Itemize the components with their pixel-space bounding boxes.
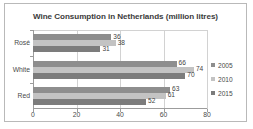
legend-label: 2015 <box>218 90 233 97</box>
legend-swatch-icon <box>211 91 215 95</box>
value-axis-labels: 020406080 <box>33 111 207 123</box>
chart-frame: Wine Consumption in Netherlands (million… <box>4 3 247 122</box>
bar-value-label: 38 <box>118 40 125 46</box>
legend-label: 2005 <box>218 62 233 69</box>
bar-value-label: 74 <box>196 66 203 72</box>
bar-value-label: 31 <box>102 46 109 52</box>
plot-area: 363831667470636152 <box>33 30 207 109</box>
legend-swatch-icon <box>211 63 215 67</box>
legend-item-2010[interactable]: 2010 <box>211 72 251 86</box>
bar-rosé-2015[interactable] <box>33 46 100 52</box>
value-axis-tick-label: 20 <box>73 111 81 118</box>
value-axis-tick-label: 40 <box>116 111 124 118</box>
bar-white-2015[interactable] <box>33 73 185 79</box>
legend-item-2015[interactable]: 2015 <box>211 86 251 100</box>
legend-item-2005[interactable]: 2005 <box>211 58 251 72</box>
category-tick <box>30 56 33 57</box>
category-label-white: White <box>13 66 30 73</box>
bar-red-2015[interactable] <box>33 99 146 105</box>
value-axis-tick-label: 0 <box>31 111 35 118</box>
category-label-rosé: Rosé <box>14 39 30 46</box>
category-tick <box>30 30 33 31</box>
category-tick <box>30 83 33 84</box>
category-axis-labels: RoséWhiteRed <box>5 30 30 109</box>
chart-legend: 200520102015 <box>211 58 251 100</box>
value-axis-tick-label: 60 <box>160 111 168 118</box>
bar-value-label: 70 <box>187 72 194 78</box>
bar-value-label: 61 <box>168 92 175 98</box>
bar-value-label: 66 <box>179 60 186 66</box>
category-label-red: Red <box>18 92 30 99</box>
gridline <box>207 30 208 109</box>
legend-swatch-icon <box>211 77 215 81</box>
value-axis-tick-label: 80 <box>203 111 211 118</box>
chart-title: Wine Consumption in Netherlands (million… <box>5 12 246 21</box>
legend-label: 2010 <box>218 76 233 83</box>
bar-value-label: 52 <box>148 98 155 104</box>
